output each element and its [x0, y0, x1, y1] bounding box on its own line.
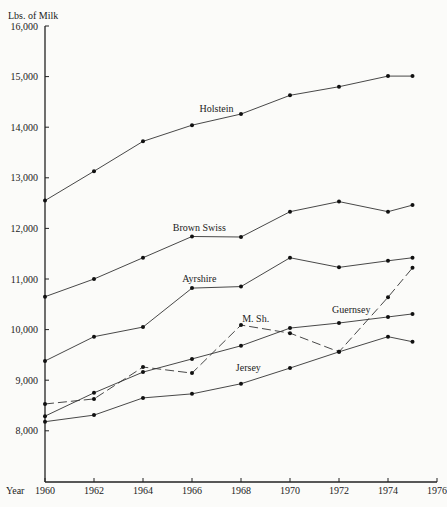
data-point [411, 203, 415, 207]
data-point [386, 315, 390, 319]
data-point [92, 277, 96, 281]
data-point [411, 74, 415, 78]
data-point [190, 286, 194, 290]
series-lines [43, 74, 415, 424]
data-point [92, 391, 96, 395]
data-point [337, 85, 341, 89]
data-point [288, 326, 292, 330]
data-point [190, 357, 194, 361]
data-point [386, 210, 390, 214]
x-axis-title: Year [6, 485, 25, 496]
data-point [239, 235, 243, 239]
data-point [141, 325, 145, 329]
series-labels: HolsteinBrown SwissAyrshireM. Sh.Guernse… [173, 103, 371, 373]
line-guernsey [45, 314, 413, 416]
y-tick-label: 16,000 [11, 21, 39, 32]
data-point [337, 321, 341, 325]
x-tick-label: 1968 [231, 485, 251, 496]
x-tick-label: 1974 [378, 485, 398, 496]
y-tick-label: 12,000 [11, 223, 39, 234]
y-tick-label: 14,000 [11, 122, 39, 133]
data-point [239, 344, 243, 348]
y-tick-label: 13,000 [11, 172, 39, 183]
data-point [43, 295, 47, 299]
x-tick-label: 1970 [280, 485, 300, 496]
series-label-guernsey: Guernsey [332, 304, 370, 315]
data-point [411, 256, 415, 260]
x-tick-label: 1972 [329, 485, 349, 496]
data-point [411, 266, 415, 270]
y-axis-title: Lbs. of Milk [8, 10, 58, 21]
data-point [337, 265, 341, 269]
line-brown-swiss [45, 202, 413, 297]
data-point [337, 350, 341, 354]
data-point [288, 331, 292, 335]
data-point [43, 199, 47, 203]
data-point [411, 312, 415, 316]
data-point [43, 414, 47, 418]
x-tick-label: 1960 [35, 485, 55, 496]
y-tick-label: 10,000 [11, 324, 39, 335]
x-tick-label: 1964 [133, 485, 153, 496]
data-point [92, 413, 96, 417]
data-point [141, 256, 145, 260]
y-tick-label: 8,000 [16, 425, 39, 436]
line-holstein [45, 76, 413, 200]
data-point [239, 112, 243, 116]
data-point [92, 397, 96, 401]
data-point [288, 210, 292, 214]
data-point [386, 295, 390, 299]
data-point [288, 93, 292, 97]
data-point [141, 365, 145, 369]
x-tick-label: 1962 [84, 485, 104, 496]
data-point [337, 200, 341, 204]
data-point [43, 359, 47, 363]
data-point [411, 340, 415, 344]
series-label-jersey: Jersey [236, 362, 261, 373]
data-point [288, 256, 292, 260]
data-point [288, 366, 292, 370]
x-tick-label: 1976 [427, 485, 447, 496]
y-tick-label: 15,000 [11, 71, 39, 82]
data-point [239, 382, 243, 386]
data-point [239, 285, 243, 289]
data-point [92, 335, 96, 339]
data-point [190, 123, 194, 127]
data-point [190, 234, 194, 238]
data-point [386, 74, 390, 78]
series-label-brown-swiss: Brown Swiss [173, 222, 226, 233]
y-tick-label: 9,000 [16, 375, 39, 386]
data-point [141, 370, 145, 374]
data-point [141, 139, 145, 143]
data-point [43, 402, 47, 406]
y-tick-label: 11,000 [11, 274, 38, 285]
data-point [190, 392, 194, 396]
data-point [92, 169, 96, 173]
x-tick-label: 1966 [182, 485, 202, 496]
series-label-holstein: Holstein [200, 103, 234, 114]
data-point [386, 259, 390, 263]
data-point [43, 420, 47, 424]
data-point [386, 335, 390, 339]
data-point [141, 396, 145, 400]
series-label-m-sh: M. Sh. [242, 313, 269, 324]
series-label-ayrshire: Ayrshire [182, 273, 217, 284]
data-point [190, 371, 194, 375]
axes: 8,0009,00010,00011,00012,00013,00014,000… [11, 21, 447, 497]
milk-yield-line-chart: Lbs. of Milk Year 8,0009,00010,00011,000… [0, 0, 447, 507]
